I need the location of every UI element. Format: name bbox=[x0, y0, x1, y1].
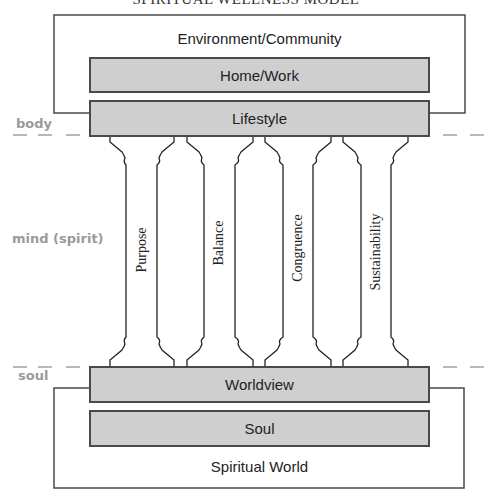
lifestyle-label: Lifestyle bbox=[232, 110, 287, 127]
soul-label: Soul bbox=[244, 420, 274, 437]
lifestyle-layer: Lifestyle bbox=[89, 100, 430, 137]
pillar-label-sustainability: Sustainability bbox=[368, 214, 384, 291]
worldview-label: Worldview bbox=[225, 376, 294, 393]
pillar-label-purpose: Purpose bbox=[134, 227, 150, 272]
pillar-label-congruence: Congruence bbox=[290, 214, 306, 282]
pillar-label-balance: Balance bbox=[211, 220, 227, 265]
soul-layer: Soul bbox=[89, 410, 430, 447]
home-work-label: Home/Work bbox=[220, 67, 299, 84]
worldview-layer: Worldview bbox=[89, 366, 430, 403]
side-label-mind: mind (spirit) bbox=[12, 231, 104, 246]
spiritual-world-label: Spiritual World bbox=[54, 458, 465, 475]
side-label-soul: soul bbox=[18, 368, 48, 383]
home-work-layer: Home/Work bbox=[89, 57, 430, 93]
environment-community-label: Environment/Community bbox=[54, 30, 465, 47]
side-label-body: body bbox=[16, 116, 52, 131]
